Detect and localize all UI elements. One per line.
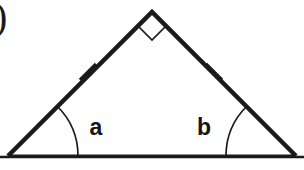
geometry-figure: ) a b [0, 0, 304, 170]
angle-label-a: a [90, 114, 103, 140]
figure-background [0, 0, 304, 170]
question-label-paren: ) [0, 0, 7, 39]
angle-label-b: b [197, 114, 211, 140]
